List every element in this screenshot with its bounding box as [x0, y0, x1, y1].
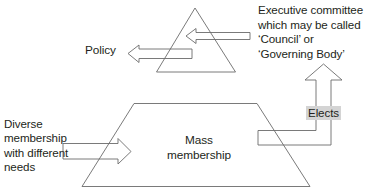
diagram-canvas: Executive committee which may be called … — [0, 0, 367, 192]
elects-label: Elects — [306, 106, 341, 120]
executive-committee-arrow-icon — [186, 29, 250, 44]
executive-committee-label: Executive committee which may be called … — [258, 3, 363, 61]
policy-arrow-icon — [128, 45, 192, 63]
mass-membership-label: Mass membership — [167, 133, 231, 163]
elects-arrow-icon — [258, 64, 342, 145]
diverse-membership-arrow-icon — [63, 139, 131, 165]
policy-label: Policy — [85, 44, 116, 57]
diverse-membership-label: Diverse membership with different needs — [4, 117, 68, 175]
